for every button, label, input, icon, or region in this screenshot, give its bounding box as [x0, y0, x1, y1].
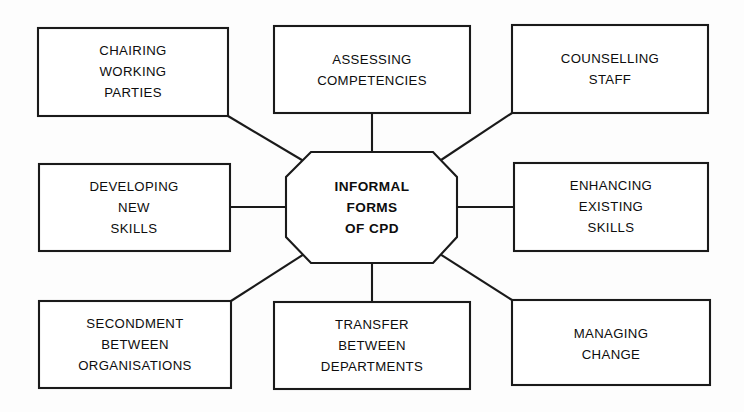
label-secondment-between-organisations-line-1: SECONDMENT [86, 316, 183, 331]
node-chairing-working-parties[interactable]: CHAIRING WORKING PARTIES [38, 28, 228, 116]
connector-chairing-working-parties [228, 116, 312, 166]
label-secondment-between-organisations-line-2: BETWEEN [101, 337, 169, 352]
center-label-line-2: FORMS [346, 200, 397, 215]
node-transfer-between-departments[interactable]: TRANSFER BETWEEN DEPARTMENTS [274, 302, 470, 389]
label-enhancing-existing-skills-line-1: ENHANCING [570, 178, 652, 193]
label-counselling-staff-line-2: STAFF [589, 72, 632, 87]
node-secondment-between-organisations[interactable]: SECONDMENT BETWEEN ORGANISATIONS [39, 301, 231, 388]
box-managing-change [512, 300, 710, 385]
center-label-line-1: INFORMAL [335, 179, 410, 194]
node-enhancing-existing-skills[interactable]: ENHANCING EXISTING SKILLS [514, 163, 708, 251]
label-chairing-working-parties-line-3: PARTIES [104, 85, 162, 100]
label-managing-change-line-2: CHANGE [582, 347, 641, 362]
center-label-line-3: OF CPD [345, 221, 399, 236]
label-transfer-between-departments-line-1: TRANSFER [335, 317, 409, 332]
label-transfer-between-departments-line-2: BETWEEN [338, 338, 406, 353]
label-managing-change-line-1: MANAGING [574, 326, 649, 341]
box-counselling-staff [512, 25, 708, 113]
label-developing-new-skills-line-1: DEVELOPING [89, 179, 178, 194]
box-assessing-competencies [274, 26, 470, 113]
label-chairing-working-parties-line-1: CHAIRING [99, 43, 166, 58]
node-developing-new-skills[interactable]: DEVELOPING NEW SKILLS [39, 164, 230, 251]
node-counselling-staff[interactable]: COUNSELLING STAFF [512, 25, 708, 113]
label-assessing-competencies-line-1: ASSESSING [332, 52, 411, 67]
diagram-canvas-container: INFORMAL FORMS OF CPD CHAIRING WORKING P… [0, 0, 744, 412]
label-developing-new-skills-line-3: SKILLS [111, 221, 158, 236]
label-counselling-staff-line-1: COUNSELLING [561, 51, 659, 66]
node-assessing-competencies[interactable]: ASSESSING COMPETENCIES [274, 26, 470, 113]
connector-secondment-between-organisations [231, 249, 312, 301]
label-transfer-between-departments-line-3: DEPARTMENTS [321, 359, 423, 374]
label-enhancing-existing-skills-line-2: EXISTING [579, 199, 643, 214]
label-enhancing-existing-skills-line-3: SKILLS [588, 220, 635, 235]
label-chairing-working-parties-line-2: WORKING [100, 64, 167, 79]
node-center-informal-forms-of-cpd[interactable]: INFORMAL FORMS OF CPD [286, 152, 457, 263]
label-developing-new-skills-line-2: NEW [118, 200, 150, 215]
connector-counselling-staff [432, 113, 512, 166]
connector-managing-change [432, 249, 512, 300]
node-managing-change[interactable]: MANAGING CHANGE [512, 300, 710, 385]
label-assessing-competencies-line-2: COMPETENCIES [317, 73, 427, 88]
cpd-diagram: INFORMAL FORMS OF CPD CHAIRING WORKING P… [0, 0, 744, 412]
label-secondment-between-organisations-line-3: ORGANISATIONS [78, 358, 191, 373]
